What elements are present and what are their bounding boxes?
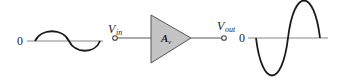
amplifier-diagram: 0 V in A v V out 0 <box>0 0 341 80</box>
output-zero-label: 0 <box>239 31 245 45</box>
amplifier-triangle: A v <box>151 15 191 63</box>
output-terminal: V out <box>191 19 236 40</box>
vout-label-sub: out <box>225 25 236 34</box>
input-zero-label: 0 <box>17 34 23 48</box>
input-terminal: V in <box>108 22 151 40</box>
vin-label-sub: in <box>116 28 122 37</box>
output-waveform-group: 0 <box>239 1 328 76</box>
output-terminal-node <box>222 36 227 41</box>
input-waveform-group: 0 <box>17 31 103 51</box>
input-terminal-node <box>113 36 118 41</box>
